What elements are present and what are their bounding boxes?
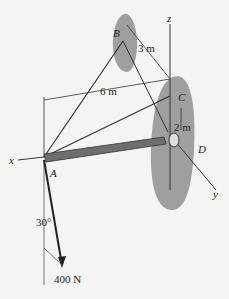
boom-ad <box>44 137 166 162</box>
label-z: z <box>166 12 172 24</box>
x-axis <box>18 157 44 160</box>
label-b: B <box>113 27 120 39</box>
line-bd <box>123 41 168 132</box>
label-3m: 3 m <box>138 42 155 54</box>
label-30deg: 30° <box>36 216 51 228</box>
label-6m: 6 m <box>100 85 117 97</box>
label-a: A <box>49 167 57 179</box>
cable-ab <box>44 41 123 157</box>
label-c: C <box>178 91 186 103</box>
statics-diagram: B C D A z x y 3 m 6 m 2 m 30° 400 N <box>0 0 229 299</box>
label-400n: 400 N <box>54 273 81 285</box>
ball-joint-d <box>169 133 179 147</box>
label-x: x <box>8 154 14 166</box>
label-2m: 2 m <box>174 121 191 133</box>
label-y: y <box>212 188 218 200</box>
label-d: D <box>197 143 206 155</box>
